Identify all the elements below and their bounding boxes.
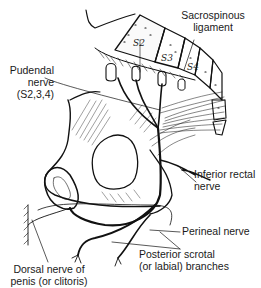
- label-dorsal-nerve: Dorsal nerve of penis (or clitoris): [5, 263, 93, 287]
- label-pudendal-nerve: Pudendal nerve (S2,3,4): [2, 64, 54, 100]
- vertebra-label-s3: S3: [161, 52, 173, 64]
- anatomy-illustration: [0, 0, 261, 288]
- label-inferior-rectal-nerve: Inferior rectal nerve: [194, 168, 255, 192]
- vertebra-label-s2: S2: [133, 37, 145, 49]
- vertebra-label-s4: S4: [187, 61, 199, 73]
- pudendal-nerve-diagram: S2 S3 S4 Sacrospinous ligament Pudendal …: [0, 0, 261, 288]
- label-posterior-scrotal-branches: Posterior scrotal (or labial) branches: [139, 248, 229, 272]
- label-sacrospinous-ligament: Sacrospinous ligament: [172, 9, 254, 33]
- label-perineal-nerve: Perineal nerve: [182, 225, 250, 237]
